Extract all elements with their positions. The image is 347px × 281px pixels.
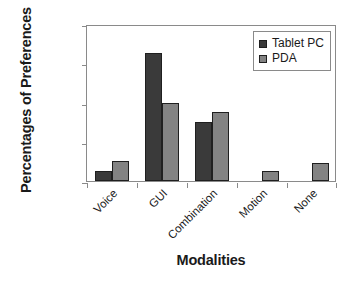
- bar-none-pda: [312, 163, 329, 181]
- bar-combination-tablet-pc: [195, 122, 212, 181]
- legend-item-pda: PDA: [259, 51, 324, 66]
- chart-legend: Tablet PCPDA: [253, 31, 331, 71]
- x-tick-mark: [336, 183, 337, 188]
- x-axis-title: Modalities: [86, 252, 336, 268]
- bar-combination-pda: [212, 112, 229, 181]
- x-tick-mark: [187, 183, 188, 188]
- legend-label: Tablet PC: [272, 37, 324, 50]
- legend-label: PDA: [272, 52, 297, 65]
- x-tick-mark: [137, 183, 138, 188]
- bar-motion-pda: [262, 171, 279, 181]
- legend-swatch-icon: [259, 55, 267, 63]
- y-axis-title: Percentages of Preferences: [18, 2, 34, 198]
- bar-gui-pda: [162, 103, 179, 182]
- legend-swatch-icon: [259, 40, 267, 48]
- y-tick-mark: [82, 26, 87, 27]
- legend-item-tablet-pc: Tablet PC: [259, 36, 324, 51]
- y-tick-mark: [82, 65, 87, 66]
- x-tick-mark: [237, 183, 238, 188]
- bar-voice-pda: [112, 161, 129, 181]
- bar-chart-figure: Percentages of Preferences 0%20%40%60%80…: [0, 0, 347, 281]
- x-tick-mark: [87, 183, 88, 188]
- x-tick-mark: [287, 183, 288, 188]
- y-tick-mark: [82, 105, 87, 106]
- bar-gui-tablet-pc: [145, 53, 162, 181]
- bar-voice-tablet-pc: [95, 171, 112, 181]
- y-tick-mark: [82, 144, 87, 145]
